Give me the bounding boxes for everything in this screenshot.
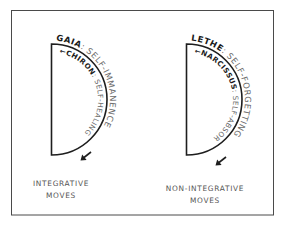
non-integrative-caption-line2: MOVES — [190, 196, 220, 205]
integrative-caption-line2: MOVES — [46, 191, 76, 200]
integrative-caption-line1: INTEGRATIVE — [33, 179, 89, 188]
moves-diagram: GAIA: SELF-IMMANENCE ←CHIRON: SELF-HEALI… — [0, 0, 284, 226]
non-integrative-caption-line1: NON-INTEGRATIVE — [166, 184, 244, 193]
